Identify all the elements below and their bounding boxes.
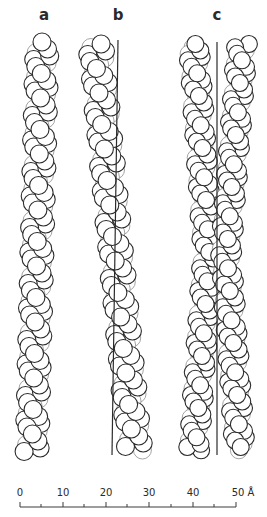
subunit-circle [232, 439, 249, 456]
subunit-circle [117, 364, 135, 382]
subunit-circle [92, 35, 110, 53]
subunit-circle [225, 335, 242, 352]
subunit-circle [194, 140, 211, 157]
subunit-circle [98, 172, 116, 190]
subunit-circle [188, 429, 205, 446]
subunit-circle [31, 121, 49, 139]
scale-label-40: 40 [187, 488, 200, 498]
subunit-circle [32, 89, 50, 107]
subunit-circle [196, 169, 213, 186]
subunit-circle [90, 84, 108, 102]
subunit-circle [231, 75, 248, 92]
subunit-circle [26, 313, 44, 331]
subunit-circle [194, 348, 211, 365]
subunit-circle [221, 283, 238, 300]
subunit-circle [33, 33, 51, 51]
subunit-circle [95, 140, 113, 158]
subunit-circle [223, 312, 240, 329]
subunit-circle [32, 65, 50, 83]
subunit-circle [30, 145, 48, 163]
helix-a1 [15, 33, 59, 461]
subunit-circle [229, 387, 246, 404]
subunit-circle [25, 369, 43, 387]
helix-c2 [211, 36, 258, 459]
subunit-circle [225, 156, 242, 173]
panel-b [79, 35, 152, 459]
subunit-circle [220, 260, 237, 277]
subunit-circle [233, 52, 250, 69]
subunit-circle [104, 228, 122, 246]
subunit-circle [122, 420, 140, 438]
subunit-circle [29, 201, 47, 219]
subunit-circle [23, 425, 41, 443]
subunit-circle [230, 416, 247, 433]
subunit-circle [26, 345, 44, 363]
scale-label-50: 50 Å [232, 488, 255, 498]
subunit-circle [198, 192, 215, 209]
subunit-circle [109, 284, 127, 302]
subunit-circle [187, 36, 204, 53]
subunit-circle [223, 179, 240, 196]
subunit-circle [192, 117, 209, 134]
scale-label-30: 30 [143, 488, 156, 498]
subunit-circle [221, 208, 238, 225]
subunit-circle [190, 88, 207, 105]
subunit-circle [227, 127, 244, 144]
subunit-circle [195, 325, 212, 342]
panel-c [179, 36, 258, 459]
subunit-circle [120, 396, 138, 414]
subunit-circle [93, 116, 111, 134]
scale-bar [20, 502, 236, 507]
subunit-circle [227, 364, 244, 381]
subunit-circle [28, 257, 46, 275]
subunit-circle [219, 231, 236, 248]
subunit-circle [190, 400, 207, 417]
scale-label-0: 0 [17, 488, 23, 498]
panel-label-b: b [113, 8, 124, 23]
subunit-circle [192, 377, 209, 394]
subunit-circle [197, 296, 214, 313]
subunit-circle [87, 60, 105, 78]
panel-label-c: c [213, 8, 222, 23]
subunit-circle [30, 177, 48, 195]
helix-drawing [0, 0, 267, 517]
scale-label-20: 20 [100, 488, 113, 498]
panel-label-a: a [39, 8, 49, 23]
subunit-circle [114, 340, 132, 358]
subunit-circle [189, 65, 206, 82]
panel-a [15, 33, 59, 461]
scale-label-10: 10 [57, 488, 70, 498]
subunit-circle [24, 401, 42, 419]
subunit-circle [27, 289, 45, 307]
subunit-circle [28, 233, 46, 251]
helix-model-figure: a b c 0 10 20 30 40 50 Å [0, 0, 267, 517]
subunit-circle [229, 104, 246, 121]
